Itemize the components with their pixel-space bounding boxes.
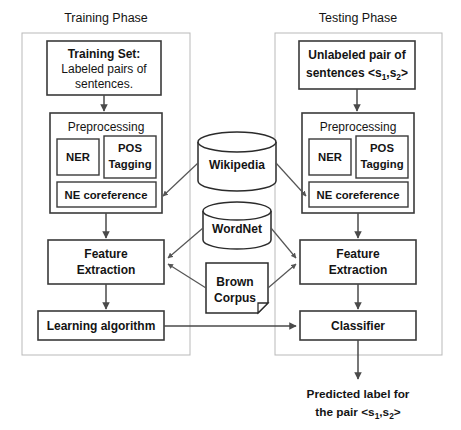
unlabeled-pair-mid: ,s	[386, 66, 396, 80]
brown-corpus-line2: Corpus	[214, 291, 256, 305]
learning-algorithm-label: Learning algorithm	[47, 319, 156, 333]
training-set-line1: Training Set:	[68, 47, 141, 61]
brown-corpus-document: Brown Corpus	[206, 263, 268, 313]
unlabeled-pair-line1: Unlabeled pair of	[308, 48, 406, 62]
predicted-label-mid: ,s	[379, 405, 389, 419]
testing-phase-title: Testing Phase	[319, 11, 398, 25]
unlabeled-pair-suffix: >	[401, 66, 408, 80]
arrow-brown-to-training-feature	[168, 264, 206, 288]
training-coref-label: NE coreference	[65, 189, 148, 201]
arrow-wikipedia-to-training-coref	[163, 163, 198, 196]
training-set-line3: sentences.	[75, 77, 133, 91]
arrow-brown-to-testing-feature	[268, 264, 296, 288]
testing-pos-line1: POS	[370, 142, 394, 154]
training-pos-line1: POS	[118, 142, 142, 154]
pipeline-diagram: Training Phase Testing Phase Training Se…	[0, 0, 461, 430]
wikipedia-datastore: Wikipedia	[198, 132, 276, 191]
training-phase-title: Training Phase	[64, 11, 148, 25]
training-preprocessing-header: Preprocessing	[68, 120, 145, 134]
wordnet-label: WordNet	[212, 222, 262, 236]
testing-pos-line2: Tagging	[360, 158, 403, 170]
testing-feature-line2: Extraction	[329, 263, 388, 277]
predicted-label-prefix: the pair <s	[315, 405, 375, 419]
training-ner-label: NER	[66, 151, 90, 163]
training-feature-line1: Feature	[84, 247, 128, 261]
arrow-wordnet-to-training-feature	[168, 228, 203, 258]
training-set-line2: Labeled pairs of	[61, 62, 147, 76]
unlabeled-pair-prefix: sentences <s	[306, 66, 382, 80]
predicted-label-line1: Predicted label for	[307, 387, 410, 401]
testing-ner-label: NER	[318, 151, 342, 163]
brown-corpus-line1: Brown	[216, 275, 253, 289]
diagram-canvas: Training Phase Testing Phase Training Se…	[0, 0, 461, 430]
testing-preprocessing-header: Preprocessing	[320, 120, 397, 134]
classifier-label: Classifier	[331, 319, 385, 333]
wordnet-datastore: WordNet	[203, 202, 271, 249]
testing-feature-line1: Feature	[336, 247, 380, 261]
testing-coref-label: NE coreference	[317, 189, 400, 201]
unlabeled-pair-line2: sentences <s1,s2>	[306, 66, 408, 82]
predicted-label-line2: the pair <s1,s2>	[315, 405, 401, 421]
training-pos-line2: Tagging	[108, 158, 151, 170]
predicted-label-suffix: >	[394, 405, 401, 419]
training-feature-line2: Extraction	[77, 263, 136, 277]
wikipedia-label: Wikipedia	[209, 158, 265, 172]
